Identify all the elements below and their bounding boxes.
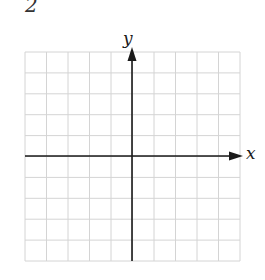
x-axis-arrow-icon [229,152,243,161]
coordinate-grid [0,0,265,280]
y-axis-arrow-icon [128,47,137,61]
axes [25,47,243,261]
coordinate-plane-figure: 2 y x [0,0,265,280]
